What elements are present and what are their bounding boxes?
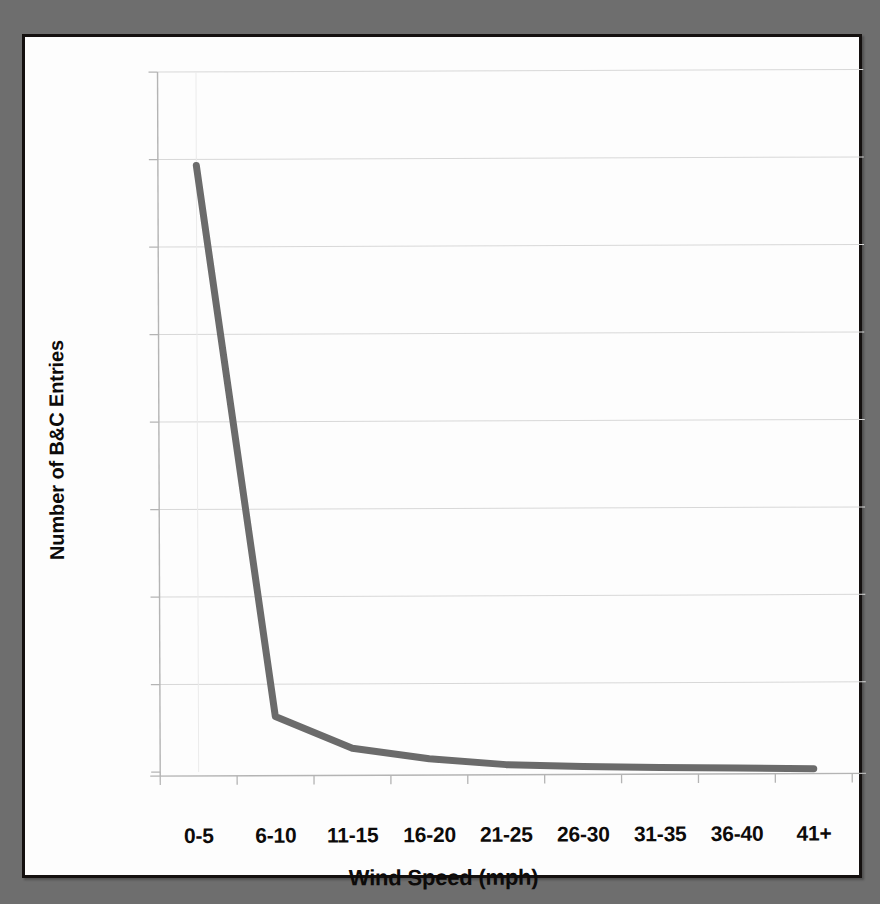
x-axis-line bbox=[150, 773, 866, 776]
x-axis-tick-label: 16-20 bbox=[403, 823, 456, 847]
y-axis-tick-labels: -1,0002,0003,0004,0005,0006,0007,0008,00… bbox=[23, 38, 160, 877]
gridline-horizontal bbox=[160, 682, 866, 685]
scanned-page: -1,0002,0003,0004,0005,0006,0007,0008,00… bbox=[22, 34, 862, 878]
x-axis-tick-label: 0-5 bbox=[184, 824, 214, 848]
x-axis-tick-label: 26-30 bbox=[557, 822, 610, 846]
x-axis-tick-labels: 0-56-1011-1516-2021-2526-3031-3536-4041+ bbox=[26, 821, 860, 854]
gridline-horizontal bbox=[158, 157, 864, 160]
gridline-horizontal bbox=[159, 419, 865, 422]
x-axis-tick-label: 31-35 bbox=[634, 822, 687, 846]
x-axis-tick-label: 6-10 bbox=[255, 824, 296, 848]
x-axis-tick-label: 41+ bbox=[796, 822, 831, 846]
x-axis-tick-label: 36-40 bbox=[711, 822, 764, 846]
line-chart: -1,0002,0003,0004,0005,0006,0007,0008,00… bbox=[23, 35, 860, 876]
data-series-line bbox=[196, 163, 813, 771]
gridline-horizontal bbox=[160, 594, 866, 597]
gridlines bbox=[158, 69, 867, 772]
x-axis-tick-label: 21-25 bbox=[480, 823, 533, 847]
gridline-horizontal bbox=[159, 332, 865, 335]
screenshot-root: -1,0002,0003,0004,0005,0006,0007,0008,00… bbox=[0, 0, 880, 904]
gridline-horizontal bbox=[158, 244, 864, 247]
x-axis-title: Wind Speed (mph) bbox=[27, 863, 861, 892]
gridline-horizontal bbox=[158, 69, 864, 72]
x-axis-tick-label: 11-15 bbox=[327, 823, 379, 847]
axis-lines bbox=[148, 69, 867, 776]
y-axis-title: Number of B&C Entries bbox=[45, 290, 69, 610]
gridline-horizontal bbox=[159, 507, 865, 510]
